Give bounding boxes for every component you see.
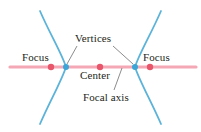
label-center: Center <box>80 70 110 81</box>
label-focal-axis: Focal axis <box>83 92 129 103</box>
vertex-point-left <box>63 64 69 70</box>
label-focus-left: Focus <box>22 52 49 63</box>
vertex-point-right <box>132 64 138 70</box>
label-focus-right: Focus <box>143 52 170 63</box>
focal-axis-leader-line <box>114 68 122 90</box>
hyperbola-figure: Focus Focus Vertices Center Focal axis <box>0 0 201 132</box>
focus-point-left <box>48 64 54 70</box>
vertices-leader-line-right <box>113 46 133 64</box>
hyperbola-diagram-canvas <box>0 0 201 132</box>
focus-point-right <box>147 64 153 70</box>
vertices-leader-line-left <box>67 46 77 64</box>
label-vertices: Vertices <box>75 33 111 44</box>
